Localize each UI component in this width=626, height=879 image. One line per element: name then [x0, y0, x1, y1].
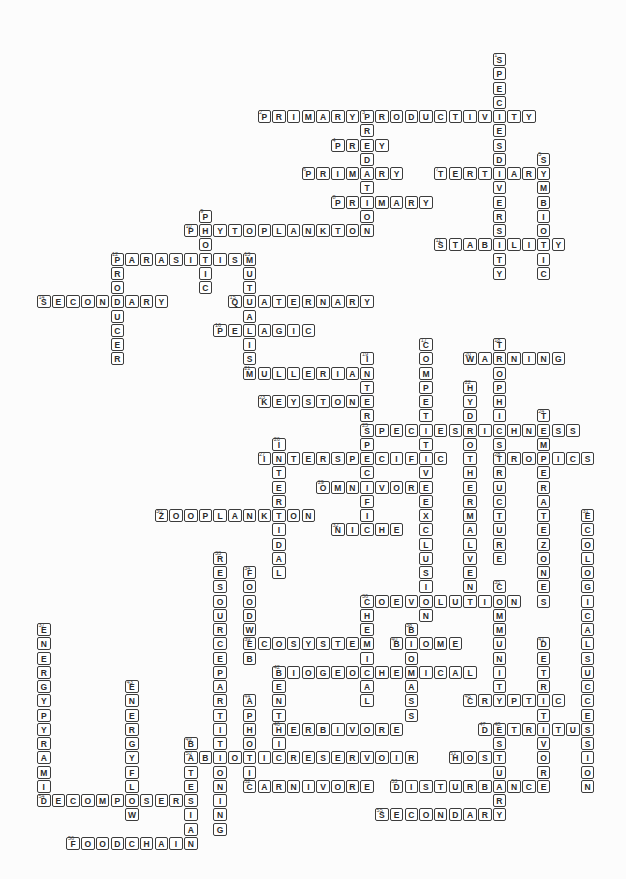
crossword-cell: N [537, 352, 551, 365]
crossword-cell: I26 [272, 438, 286, 451]
crossword-cell: T [331, 637, 345, 650]
cell-letter: L [423, 539, 428, 549]
crossword-cell: S [243, 352, 257, 365]
cell-letter: T [497, 682, 502, 692]
cell-letter: A [364, 169, 370, 179]
crossword-cell: M [360, 637, 374, 650]
cell-letter: R [291, 753, 297, 763]
cell-letter: R [41, 667, 47, 677]
cell-letter: O [364, 211, 371, 221]
cell-letter: S [541, 154, 547, 164]
crossword-cell: P6 [302, 167, 316, 180]
crossword-cell: U [449, 780, 463, 793]
crossword-cell: O [522, 452, 536, 465]
cell-letter: E [364, 454, 370, 464]
cell-letter: E [364, 397, 370, 407]
cell-letter: D [276, 539, 282, 549]
cell-letter: C [540, 268, 546, 278]
crossword-cell: Y [493, 694, 507, 707]
cell-letter: E [364, 781, 370, 791]
cell-letter: R [305, 297, 311, 307]
cell-letter: S [497, 226, 503, 236]
crossword-cell: O [243, 224, 257, 237]
crossword-cell: D54 [37, 794, 51, 807]
crossword-cell: I [37, 780, 51, 793]
crossword-cell: N [507, 352, 521, 365]
cell-letter: A [482, 354, 488, 364]
crossword-cell: I [331, 167, 345, 180]
crossword-cell: C [581, 609, 595, 622]
crossword-cell: C [434, 452, 448, 465]
crossword-cell: E [390, 808, 404, 821]
crossword-cell: D [111, 837, 125, 850]
crossword-cell: E [125, 709, 139, 722]
crossword-cell: E48 [493, 723, 507, 736]
crossword-cell: C [419, 523, 433, 536]
cell-letter: C [70, 297, 76, 307]
crossword-cell: X [419, 509, 433, 522]
crossword-cell: I [537, 210, 551, 223]
crossword-cell: E [155, 794, 169, 807]
cell-letter: R [276, 496, 282, 506]
crossword-cell: R [493, 794, 507, 807]
cell-letter: A [467, 240, 473, 250]
cell-letter: U [496, 639, 502, 649]
crossword-cell: V [463, 552, 477, 565]
crossword-cell: P [37, 709, 51, 722]
crossword-cell: T [507, 723, 521, 736]
crossword-cell: H [493, 395, 507, 408]
clue-number: 48 [494, 722, 500, 728]
crossword-cell: I [213, 751, 227, 764]
cell-letter: S [497, 140, 503, 150]
cell-letter: I [366, 653, 368, 663]
crossword-cell: R [360, 409, 374, 422]
cell-letter: I [425, 454, 427, 464]
crossword-cell: M21 [243, 367, 257, 380]
crossword-cell: M [493, 609, 507, 622]
cell-letter: H [467, 468, 473, 478]
crossword-cell: I [272, 523, 286, 536]
crossword-cell: Y [155, 295, 169, 308]
crossword-cell: R [140, 295, 154, 308]
cell-letter: S [320, 639, 326, 649]
clue-number: 20 [465, 352, 471, 358]
crossword-cell: R [302, 723, 316, 736]
crossword-cell: A [449, 666, 463, 679]
crossword-cell: C [581, 694, 595, 707]
crossword-cell: V [493, 181, 507, 194]
cell-letter: O [423, 354, 430, 364]
crossword-cell: R [346, 780, 360, 793]
crossword-cell: D [493, 153, 507, 166]
cell-letter: N [217, 810, 223, 820]
crossword-cell: R [360, 124, 374, 137]
crossword-cell: N [184, 837, 198, 850]
cell-letter: T [203, 254, 208, 264]
crossword-cell: B [478, 780, 492, 793]
cell-letter: O [217, 596, 224, 606]
cell-letter: N [305, 226, 311, 236]
clue-number: 3 [362, 110, 365, 116]
cell-letter: R [276, 781, 282, 791]
clue-number: 2 [259, 110, 262, 116]
crossword-cell: U [493, 523, 507, 536]
cell-letter: O [173, 511, 180, 521]
cell-letter: N [129, 696, 135, 706]
crossword-cell: I [287, 110, 301, 123]
crossword-cell: P [243, 709, 257, 722]
cell-letter: A [585, 625, 591, 635]
cell-letter: N [496, 653, 502, 663]
crossword-cell: T [463, 595, 477, 608]
cell-letter: I [204, 268, 206, 278]
cell-letter: G [555, 354, 562, 364]
crossword-cell: R [125, 723, 139, 736]
crossword-cell: H [140, 837, 154, 850]
crossword-cell: P [375, 424, 389, 437]
cell-letter: D [408, 112, 414, 122]
crossword-cell: P [507, 694, 521, 707]
crossword-cell: P12 [111, 253, 125, 266]
crossword-cell: S14 [37, 295, 51, 308]
crossword-cell: T [287, 452, 301, 465]
cell-letter: I [219, 254, 221, 264]
crossword-cell: S [169, 253, 183, 266]
clue-number: 9 [200, 209, 203, 215]
